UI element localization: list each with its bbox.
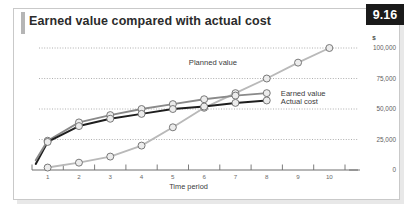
x-axis-tick-label: 9 (296, 173, 300, 180)
series-annotation-label: Actual cost (281, 97, 319, 106)
data-point-marker (263, 97, 270, 104)
data-point-marker (138, 110, 145, 117)
data-point-marker (75, 159, 82, 166)
y-axis-tick-label: 0 (392, 166, 396, 173)
x-axis-title: Time period (169, 182, 208, 191)
title-accent-bar (21, 12, 25, 34)
x-axis-tick-label: 1 (46, 173, 50, 180)
y-axis-tick-label: 50,000 (376, 105, 396, 112)
x-axis-tick-label: 10 (326, 173, 333, 180)
x-axis-tick-label: 3 (109, 173, 113, 180)
x-axis-tick-label: 8 (265, 173, 269, 180)
data-point-marker (169, 106, 176, 113)
data-point-marker (201, 96, 208, 103)
data-point-marker (232, 92, 239, 99)
x-axis-tick-label: 5 (171, 173, 175, 180)
data-point-marker (232, 99, 239, 106)
y-axis-tick-label: 100,000 (373, 44, 397, 51)
data-point-marker (295, 59, 302, 66)
data-point-marker (75, 123, 82, 130)
data-point-marker (263, 75, 270, 82)
page-title: Earned value compared with actual cost (29, 14, 271, 28)
chart-plot: 025,00050,00075,000100,000$12345678910Ti… (13, 8, 400, 200)
data-point-marker (44, 138, 51, 145)
data-point-marker (326, 45, 333, 52)
data-point-marker (201, 103, 208, 110)
data-point-marker (107, 115, 114, 122)
data-point-marker (138, 142, 145, 149)
data-point-marker (107, 153, 114, 160)
series-annotation-label: Planned value (189, 58, 237, 67)
y-axis-tick-label: 25,000 (376, 136, 396, 143)
figure-number-badge: 9.16 (366, 4, 404, 25)
x-axis-tick-label: 2 (77, 173, 81, 180)
x-axis-tick-label: 7 (234, 173, 238, 180)
x-axis-tick-label: 4 (140, 173, 144, 180)
data-point-marker (169, 124, 176, 131)
y-axis-tick-label: 75,000 (376, 75, 396, 82)
figure-container: Earned value compared with actual cost 9… (0, 0, 417, 212)
data-point-marker (263, 90, 270, 97)
x-axis-tick-label: 6 (202, 173, 206, 180)
data-point-marker (44, 164, 51, 171)
y-axis-unit-label: $ (372, 34, 376, 41)
